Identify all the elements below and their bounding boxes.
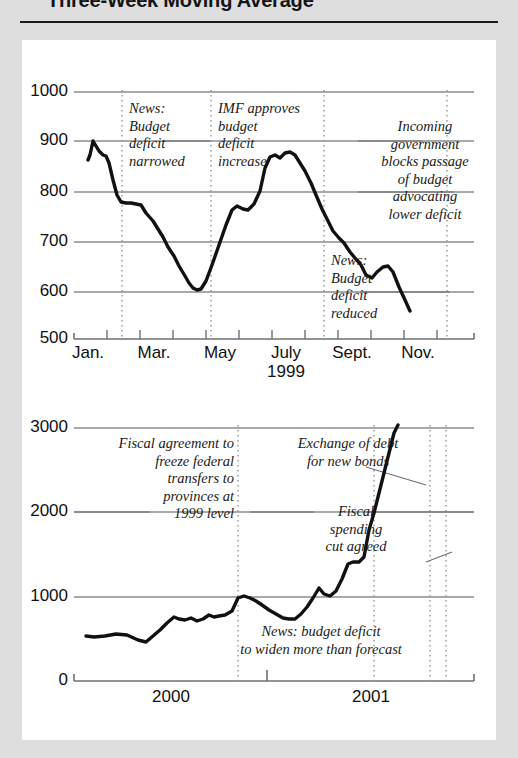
top-xtick-mar: Mar. bbox=[120, 343, 188, 363]
bottom-ytick-3000: 3000 bbox=[16, 417, 68, 437]
annotation-fiscal-agreement-freeze-transfers: Fiscal agreement to freeze federal trans… bbox=[112, 435, 234, 523]
bottom-axis bbox=[74, 670, 474, 681]
chart-title-band: Three-Week Moving Average bbox=[0, 0, 518, 22]
title-divider bbox=[20, 21, 498, 23]
page-background: Three-Week Moving Average bbox=[0, 0, 518, 758]
annotation-news-budget-deficit-to-widen: News: budget deficit to widen more than … bbox=[210, 623, 432, 658]
annotation-news-budget-deficit-reduced: News: Budget deficit reduced bbox=[331, 252, 415, 322]
bottom-ytick-1000: 1000 bbox=[16, 586, 68, 606]
top-xtick-nov: Nov. bbox=[384, 343, 452, 363]
annotation-fiscal-spending-cut-agreed: Fiscal spending cut agreed bbox=[310, 503, 402, 556]
bottom-ytick-2000: 2000 bbox=[16, 501, 68, 521]
top-ytick-600: 600 bbox=[20, 281, 68, 301]
top-xtick-jan: Jan. bbox=[54, 343, 122, 363]
bottom-xtick-2001: 2001 bbox=[337, 687, 405, 707]
top-chart: 1000 900 800 700 600 500 Jan. Mar. May J… bbox=[22, 40, 496, 390]
top-ytick-700: 700 bbox=[20, 231, 68, 251]
top-xtick-may: May bbox=[186, 343, 254, 363]
page-title: Three-Week Moving Average bbox=[47, 0, 314, 12]
bottom-xtick-2000: 2000 bbox=[137, 687, 205, 707]
top-xaxis-year: 1999 bbox=[252, 362, 320, 382]
top-axis bbox=[74, 333, 474, 339]
top-ytick-1000: 1000 bbox=[20, 81, 68, 101]
bottom-chart: 3000 2000 1000 0 2000 2001 Fiscal agreem… bbox=[22, 395, 496, 695]
top-ytick-900: 900 bbox=[20, 130, 68, 150]
bottom-ytick-0: 0 bbox=[16, 670, 68, 690]
annotation-news-budget-deficit-narrowed: News: Budget deficit narrowed bbox=[129, 100, 215, 170]
charts-card: 1000 900 800 700 600 500 Jan. Mar. May J… bbox=[22, 40, 496, 740]
top-ytick-800: 800 bbox=[20, 181, 68, 201]
top-xtick-july: July bbox=[252, 343, 320, 363]
annotation-imf-approves-budget-deficit-increase: IMF approves budget deficit increase bbox=[218, 100, 328, 170]
annotation-exchange-of-debt-for-new-bonds: Exchange of debt for new bonds bbox=[280, 435, 416, 470]
top-xticks bbox=[107, 330, 437, 339]
top-xtick-sept: Sept. bbox=[318, 343, 386, 363]
annotation-incoming-government-blocks-passage: Incoming government blocks passage of bu… bbox=[358, 118, 492, 223]
